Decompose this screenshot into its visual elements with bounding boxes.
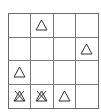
grid-cell-r2-c3[interactable] xyxy=(76,61,98,85)
triangle-shape xyxy=(36,20,47,30)
grid-cell-r2-c0[interactable] xyxy=(9,61,31,85)
puzzle-grid xyxy=(8,13,99,109)
triangle-icon xyxy=(13,66,26,78)
grid-cell-r3-c0[interactable] xyxy=(9,85,31,109)
crossed-triangle-icon xyxy=(35,90,48,102)
grid-cell-r1-c3[interactable] xyxy=(76,38,98,62)
crossed-triangle-icon xyxy=(13,90,26,102)
grid-cell-r2-c1[interactable] xyxy=(31,61,53,85)
grid-cell-r1-c0[interactable] xyxy=(9,38,31,62)
grid-cell-r3-c3[interactable] xyxy=(76,85,98,109)
grid-cell-r2-c2[interactable] xyxy=(54,61,76,85)
triangle-shape xyxy=(59,91,70,101)
grid-cell-r3-c1[interactable] xyxy=(31,85,53,109)
grid-cell-r1-c1[interactable] xyxy=(31,38,53,62)
grid-cell-r0-c3[interactable] xyxy=(76,14,98,38)
grid-cell-r0-c2[interactable] xyxy=(54,14,76,38)
grid-cell-r0-c1[interactable] xyxy=(31,14,53,38)
triangle-shape xyxy=(81,44,92,54)
triangle-icon xyxy=(80,43,93,55)
grid-cell-r0-c0[interactable] xyxy=(9,14,31,38)
triangle-icon xyxy=(35,19,48,31)
triangle-shape xyxy=(14,67,25,77)
triangle-icon xyxy=(58,90,71,102)
grid-cell-r3-c2[interactable] xyxy=(54,85,76,109)
grid-cell-r1-c2[interactable] xyxy=(54,38,76,62)
